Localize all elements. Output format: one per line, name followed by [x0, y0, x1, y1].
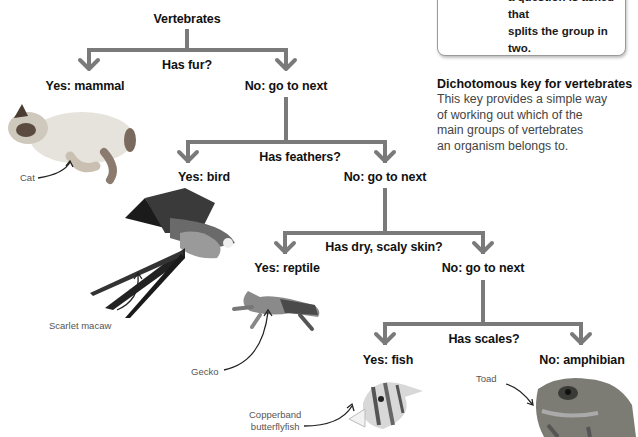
question-has-scales: Has scales? — [448, 332, 519, 346]
butterflyfish-pointer — [300, 400, 380, 430]
macaw-caption: Scarlet macaw — [49, 320, 111, 332]
gecko-pointer — [220, 308, 290, 378]
toad-pointer — [500, 380, 540, 410]
question-has-fur: Has fur? — [162, 58, 212, 72]
answer-no-next-1: No: go to next — [245, 79, 328, 93]
butterflyfish-caption-line: Copperband — [249, 409, 301, 421]
answer-no-next-3: No: go to next — [442, 261, 525, 275]
answer-yes-reptile: Yes: reptile — [254, 261, 320, 275]
answer-yes-bird: Yes: bird — [178, 170, 230, 184]
root-label: Vertebrates — [154, 12, 221, 26]
butterflyfish-caption-line: butterflyfish — [249, 421, 301, 433]
answer-yes-mammal: Yes: mammal — [46, 79, 125, 93]
gecko-caption: Gecko — [191, 366, 218, 378]
question-has-feathers: Has feathers? — [259, 150, 340, 164]
toad-caption: Toad — [476, 373, 497, 385]
answer-no-next-2: No: go to next — [344, 170, 427, 184]
question-dry-scaly-skin: Has dry, scaly skin? — [325, 240, 442, 254]
macaw-pointer — [80, 270, 150, 315]
toad-image — [528, 375, 638, 437]
answer-yes-fish: Yes: fish — [363, 353, 414, 367]
cat-caption: Cat — [20, 172, 35, 184]
answer-no-amphibian: No: amphibian — [539, 353, 625, 367]
butterflyfish-caption: Copperband butterflyfish — [249, 409, 301, 433]
